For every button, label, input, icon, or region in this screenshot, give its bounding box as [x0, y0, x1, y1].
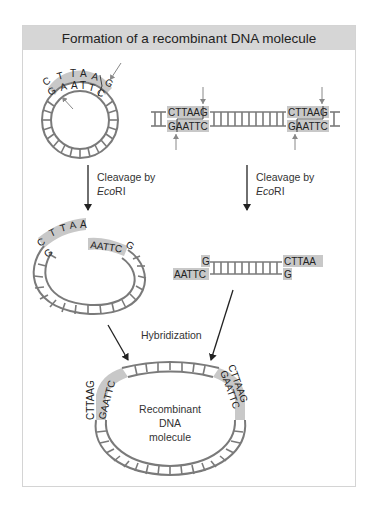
hybridization-label: Hybridization: [141, 329, 202, 341]
linear-dna: CTTAAG GAATTC CTTAAG GAATTC: [151, 87, 340, 150]
site1-bottom-strand: GAATTC: [168, 121, 208, 132]
svg-text:A: A: [71, 80, 78, 91]
cleavage-label-right: Cleavage by: [256, 171, 315, 183]
plasmid: C T T A A G G A A T T C: [41, 63, 122, 158]
svg-text:G: G: [284, 269, 292, 280]
recombinant-dna-diagram: C T T A A G G A A T T C: [0, 0, 375, 507]
svg-text:DNA: DNA: [159, 417, 181, 429]
svg-text:EcoRI: EcoRI: [97, 185, 126, 197]
site1-top-strand: CTTAAG: [168, 107, 208, 118]
svg-text:A: A: [80, 68, 87, 79]
svg-text:G: G: [202, 256, 210, 267]
hybridization-arrow-right: [211, 290, 233, 360]
hybridization-arrow-left: [108, 325, 128, 360]
cut-site-arrow: [62, 97, 73, 109]
cleavage-label-left: Cleavage by: [97, 171, 156, 183]
cut-plasmid: C T T A A G AATTC G: [34, 218, 146, 314]
svg-text:A: A: [80, 219, 87, 230]
cut-plasmid-right-end: AATTC: [90, 239, 123, 254]
recombinant-left-outer: CTTAAG: [85, 380, 96, 420]
recombinant-label: Recombinant: [139, 403, 201, 415]
recombinant-molecule: CTTAAG GAATTC GAATTC CTTAAG Recombinant …: [85, 362, 250, 475]
svg-text:G: G: [42, 246, 55, 260]
svg-text:T: T: [80, 80, 86, 91]
site2-top-strand: CTTAAG: [288, 107, 328, 118]
site2-bottom-strand: GAATTC: [288, 121, 328, 132]
dna-fragment: G AATTC CTTAA G: [173, 255, 323, 280]
cut-site-arrow: [110, 63, 121, 80]
svg-text:T: T: [70, 68, 76, 79]
svg-text:EcoRI: EcoRI: [256, 185, 285, 197]
fragment-right-end: CTTAA: [284, 256, 316, 267]
svg-text:molecule: molecule: [149, 431, 191, 443]
fragment-left-end: AATTC: [174, 269, 206, 280]
